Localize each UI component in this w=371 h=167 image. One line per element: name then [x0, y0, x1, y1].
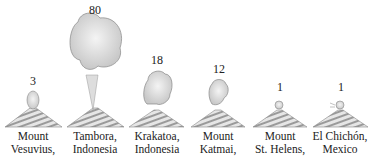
label-katmai: Mount Katmai, [186, 130, 250, 156]
label-line2: Katmai, [186, 143, 250, 156]
value-el-chichon: 1 [311, 80, 371, 95]
value-st-helens: 1 [250, 80, 310, 95]
value-katmai: 12 [189, 62, 249, 77]
volcano-tambora-icon [67, 13, 124, 127]
label-vesuvius: Mount Vesuvius, [1, 130, 65, 156]
label-line1: Tambora, [63, 130, 127, 143]
label-el-chichon: El Chichón, Mexico [308, 130, 371, 156]
value-tambora: 80 [65, 3, 125, 18]
volcano-el-chichon-icon [313, 101, 368, 127]
label-line2: Indonesia [63, 143, 127, 156]
value-vesuvius: 3 [3, 74, 63, 89]
label-tambora: Tambora, Indonesia [63, 130, 127, 156]
volcano-krakatoa-icon [129, 71, 184, 127]
label-line1: Mount [186, 130, 250, 143]
label-st-helens: Mount St. Helens, [248, 130, 312, 156]
label-line1: El Chichón, [308, 130, 371, 143]
label-line2: Mexico [308, 143, 371, 156]
label-line1: Krakatoa, [125, 130, 189, 143]
label-line2: Vesuvius, [1, 143, 65, 156]
label-line2: St. Helens, [248, 143, 312, 156]
volcano-vesuvius-icon [5, 91, 62, 127]
label-line1: Mount [248, 130, 312, 143]
label-krakatoa: Krakatoa, Indonesia [125, 130, 189, 156]
value-krakatoa: 18 [127, 53, 187, 68]
volcano-st-helens-icon [253, 101, 307, 127]
label-line2: Indonesia [125, 143, 189, 156]
volcano-katmai-icon [191, 80, 245, 128]
label-line1: Mount [1, 130, 65, 143]
